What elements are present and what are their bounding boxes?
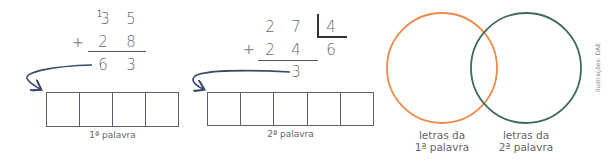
quotient: 6 <box>324 42 338 58</box>
venn-right-label-line1: letras da <box>484 129 568 141</box>
plus-sign: + <box>72 34 84 50</box>
digit: 2 <box>263 19 277 35</box>
venn-left-label-line1: letras da <box>400 129 484 141</box>
illustration-credit: Ilustrações: DAE <box>594 43 601 92</box>
letter-box[interactable] <box>241 93 274 125</box>
divisor: 4 <box>324 19 338 35</box>
letter-box[interactable] <box>341 93 373 125</box>
division-bracket-vertical <box>317 14 319 36</box>
plus-sign: + <box>243 41 255 57</box>
digit: 2 <box>263 42 277 58</box>
digit: 3 <box>124 57 138 73</box>
digit: 4 <box>289 42 303 58</box>
letter-box[interactable] <box>274 93 307 125</box>
letter-box[interactable] <box>113 93 146 126</box>
letter-box[interactable] <box>208 93 241 125</box>
venn-left-label-line2: 1ª palavra <box>400 141 484 153</box>
digit: 2 <box>96 34 110 50</box>
sum-line <box>88 51 146 52</box>
arrow-icon <box>27 65 92 89</box>
word-1-letter-boxes <box>46 92 179 127</box>
division-bracket-horizontal <box>317 36 347 38</box>
digit: 8 <box>124 34 138 50</box>
arrow-icon <box>193 71 290 89</box>
letter-box[interactable] <box>308 93 341 125</box>
letter-box[interactable] <box>80 93 113 126</box>
letter-box[interactable] <box>47 93 80 126</box>
word-2-letter-boxes <box>207 92 374 126</box>
venn-circle-left <box>387 13 497 123</box>
word-2-label: 2ª palavra <box>207 129 374 139</box>
venn-right-label: letras da 2ª palavra <box>484 129 568 153</box>
venn-left-label: letras da 1ª palavra <box>400 129 484 153</box>
digit: 7 <box>289 19 303 35</box>
word-1-label: 1ª palavra <box>46 130 179 140</box>
digit: 6 <box>96 57 110 73</box>
letter-box[interactable] <box>146 93 178 126</box>
remainder: 3 <box>289 64 303 80</box>
venn-right-label-line2: 2ª palavra <box>484 141 568 153</box>
venn-circle-right <box>471 13 581 123</box>
digit: 5 <box>124 11 138 27</box>
digit: 3 <box>98 11 112 27</box>
subtraction-line <box>258 60 318 61</box>
